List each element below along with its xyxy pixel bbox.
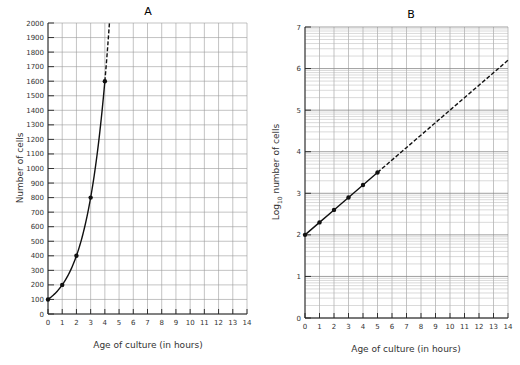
y-tick-label: 5 bbox=[297, 107, 301, 115]
x-tick-label: 11 bbox=[460, 323, 469, 331]
series-observed bbox=[305, 173, 378, 235]
chart-a-xlabel: Age of culture (in hours) bbox=[93, 340, 202, 350]
y-tick-label: 1000 bbox=[26, 165, 44, 173]
y-tick-label: 1900 bbox=[26, 34, 44, 42]
y-tick-label: 2000 bbox=[26, 20, 44, 28]
data-point bbox=[74, 254, 78, 258]
x-tick-label: 8 bbox=[419, 323, 423, 331]
y-tick-label: 500 bbox=[31, 238, 44, 246]
y-tick-label: 1700 bbox=[26, 63, 44, 71]
y-tick-label: 800 bbox=[31, 194, 44, 202]
x-tick-label: 0 bbox=[46, 319, 50, 327]
x-tick-label: 3 bbox=[88, 319, 92, 327]
y-tick-label: 6 bbox=[297, 65, 302, 73]
y-tick-label: 400 bbox=[31, 252, 44, 260]
x-tick-label: 10 bbox=[186, 319, 195, 327]
y-tick-label: 1500 bbox=[26, 92, 44, 100]
data-point bbox=[60, 283, 64, 287]
data-point bbox=[88, 195, 92, 199]
y-tick-label: 1800 bbox=[26, 49, 44, 57]
y-tick-label: 1400 bbox=[26, 107, 44, 115]
y-tick-label: 4 bbox=[297, 148, 302, 156]
y-tick-label: 700 bbox=[31, 209, 44, 217]
chart-b-grid bbox=[305, 27, 508, 318]
chart-a-grid bbox=[48, 23, 247, 314]
data-point bbox=[332, 208, 336, 212]
y-tick-label: 2 bbox=[297, 231, 301, 239]
chart-b-ticks: 0123456789101112131401234567 bbox=[297, 24, 513, 332]
chart-a-title: A bbox=[144, 5, 152, 18]
x-tick-label: 0 bbox=[303, 323, 307, 331]
chart-a-ylabel: Number of cells bbox=[15, 132, 25, 203]
y-tick-label: 1100 bbox=[26, 150, 44, 158]
chart-a-ticks: 0123456789101112131401002003004005006007… bbox=[26, 20, 252, 328]
data-point bbox=[317, 220, 321, 224]
chart-b-ylabel: Log10 number of cells bbox=[271, 124, 283, 221]
x-tick-label: 2 bbox=[332, 323, 336, 331]
y-tick-label: 1 bbox=[297, 273, 301, 281]
y-tick-label: 200 bbox=[31, 281, 44, 289]
y-tick-label: 0 bbox=[40, 311, 44, 319]
x-tick-label: 13 bbox=[228, 319, 237, 327]
y-tick-label: 900 bbox=[31, 180, 44, 188]
data-point bbox=[303, 233, 307, 237]
y-tick-label: 1200 bbox=[26, 136, 44, 144]
figure: A 01234567891011121314010020030040050060… bbox=[0, 0, 520, 365]
y-tick-label: 0 bbox=[297, 315, 301, 323]
data-point bbox=[46, 297, 50, 301]
x-tick-label: 3 bbox=[346, 323, 350, 331]
y-tick-label: 300 bbox=[31, 267, 44, 275]
chart-b: B 0123456789101112131401234567 Log10 num… bbox=[271, 8, 513, 354]
x-tick-label: 14 bbox=[504, 323, 513, 331]
x-tick-label: 1 bbox=[317, 323, 321, 331]
x-tick-label: 14 bbox=[243, 319, 252, 327]
x-tick-label: 7 bbox=[404, 323, 408, 331]
x-tick-label: 7 bbox=[145, 319, 149, 327]
chart-b-title: B bbox=[407, 8, 415, 21]
x-tick-label: 9 bbox=[174, 319, 178, 327]
chart-a-series bbox=[46, 23, 110, 301]
x-tick-label: 6 bbox=[131, 319, 136, 327]
y-tick-label: 1300 bbox=[26, 121, 44, 129]
y-tick-label: 600 bbox=[31, 223, 44, 231]
x-tick-label: 2 bbox=[74, 319, 78, 327]
x-tick-label: 12 bbox=[475, 323, 484, 331]
x-tick-label: 5 bbox=[117, 319, 121, 327]
x-tick-label: 6 bbox=[390, 323, 395, 331]
x-tick-label: 1 bbox=[60, 319, 64, 327]
x-tick-label: 4 bbox=[361, 323, 366, 331]
x-tick-label: 9 bbox=[433, 323, 437, 331]
y-tick-label: 1600 bbox=[26, 78, 44, 86]
y-tick-label: 7 bbox=[297, 24, 301, 32]
y-tick-label: 3 bbox=[297, 190, 301, 198]
x-tick-label: 12 bbox=[214, 319, 223, 327]
data-point bbox=[346, 195, 350, 199]
y-tick-label: 100 bbox=[31, 296, 44, 304]
x-tick-label: 8 bbox=[159, 319, 163, 327]
data-point bbox=[361, 183, 365, 187]
x-tick-label: 11 bbox=[200, 319, 209, 327]
x-tick-label: 13 bbox=[489, 323, 498, 331]
x-tick-label: 5 bbox=[375, 323, 379, 331]
chart-b-xlabel: Age of culture (in hours) bbox=[351, 344, 460, 354]
x-tick-label: 10 bbox=[446, 323, 455, 331]
x-tick-label: 4 bbox=[103, 319, 108, 327]
chart-a: A 01234567891011121314010020030040050060… bbox=[15, 5, 252, 350]
chart-b-series bbox=[303, 60, 508, 237]
